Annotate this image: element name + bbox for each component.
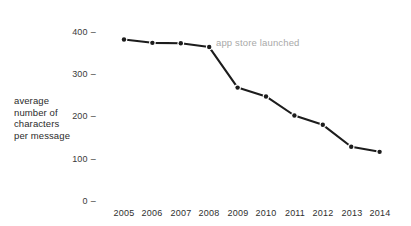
annotation-app-store-launched: app store launched bbox=[216, 37, 300, 48]
x-tick-2014: 2014 bbox=[363, 208, 397, 218]
data-point-2008 bbox=[207, 45, 211, 49]
data-point-2013 bbox=[349, 145, 353, 149]
data-point-2011 bbox=[292, 113, 296, 117]
series-line bbox=[124, 39, 380, 151]
data-point-2012 bbox=[321, 123, 325, 127]
data-point-2006 bbox=[150, 41, 154, 45]
data-point-2007 bbox=[179, 41, 183, 45]
chart-container: average number of characters per message… bbox=[0, 0, 411, 226]
data-point-2014 bbox=[377, 150, 381, 154]
data-point-2005 bbox=[122, 37, 126, 41]
data-point-2009 bbox=[235, 85, 239, 89]
data-point-2010 bbox=[264, 94, 268, 98]
plot-area bbox=[0, 0, 411, 226]
